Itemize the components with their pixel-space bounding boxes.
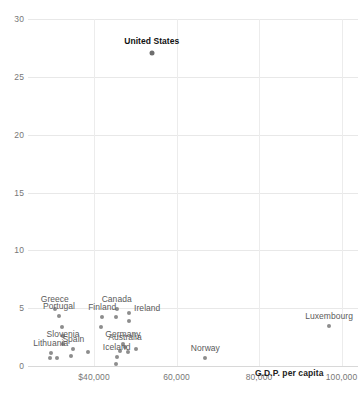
data-point[interactable] [48, 356, 52, 360]
data-point-label: Ireland [134, 303, 160, 313]
data-point-label: United States [124, 36, 179, 46]
gridline-horizontal [28, 366, 358, 367]
data-point[interactable] [327, 324, 331, 328]
data-point[interactable] [114, 315, 118, 319]
data-point-label: Luxembourg [305, 311, 353, 321]
y-axis-tick-label: 15 [14, 188, 24, 198]
data-point[interactable] [127, 319, 131, 323]
gridline-horizontal [28, 308, 358, 309]
chart-footnote [14, 402, 350, 410]
y-axis-tick-label: 30 [14, 14, 24, 24]
data-point[interactable] [203, 356, 207, 360]
gridline-vertical [177, 19, 178, 366]
data-point[interactable] [71, 347, 75, 351]
gridline-horizontal [28, 250, 358, 251]
gridline-vertical [259, 19, 260, 366]
data-point[interactable] [115, 355, 119, 359]
data-point[interactable] [86, 350, 90, 354]
gridline-horizontal [28, 135, 358, 136]
data-point[interactable] [57, 314, 61, 318]
gridline-horizontal [28, 193, 358, 194]
data-point[interactable] [127, 311, 131, 315]
data-point-label: Lithuania [33, 338, 68, 348]
y-axis-tick-label: 25 [14, 72, 24, 82]
y-axis-tick-label: 20 [14, 130, 24, 140]
data-point[interactable] [55, 356, 59, 360]
data-point[interactable] [69, 354, 73, 358]
y-axis-tick-label: 5 [19, 303, 24, 313]
data-point[interactable] [49, 351, 53, 355]
data-point[interactable] [149, 50, 154, 55]
y-axis-tick-label: 10 [14, 245, 24, 255]
x-axis-title: G.D.P. per capita [255, 368, 324, 378]
gridline-horizontal [28, 77, 358, 78]
data-point-label: Norway [191, 343, 220, 353]
data-point[interactable] [134, 347, 138, 351]
plot-area: 051015202530$40,00060,00080,000100,000Un… [28, 19, 358, 366]
data-point-label: Iceland [103, 342, 131, 352]
data-point[interactable] [100, 315, 104, 319]
y-axis-tick-label: 0 [19, 361, 24, 371]
x-axis-tick-label: 100,000 [326, 372, 357, 382]
data-point-label: Portugal [43, 301, 75, 311]
data-point[interactable] [114, 362, 118, 366]
gridline-vertical [94, 19, 95, 366]
x-axis-tick-label: 60,000 [163, 372, 190, 382]
data-point-label: Finland [88, 302, 116, 312]
data-point[interactable] [99, 325, 103, 329]
scatter-plot-chart: 051015202530$40,00060,00080,000100,000Un… [0, 0, 364, 417]
gridline-horizontal [28, 19, 358, 20]
x-axis-tick-label: $40,000 [78, 372, 109, 382]
